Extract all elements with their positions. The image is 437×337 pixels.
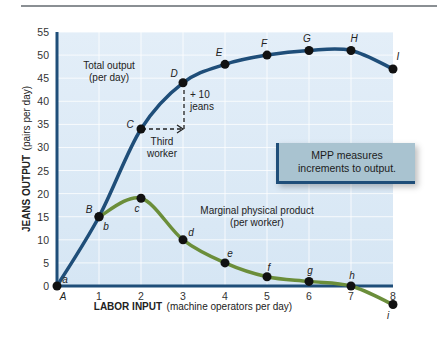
mpp-sublabel: (per worker) bbox=[230, 217, 284, 228]
mpp-point-label: g bbox=[307, 265, 313, 276]
data-point bbox=[137, 124, 146, 133]
data-point bbox=[53, 282, 62, 291]
callout-line-2: increments to output. bbox=[298, 162, 396, 175]
callout-line-1: MPP measures bbox=[311, 149, 383, 162]
data-point bbox=[305, 277, 314, 286]
data-point bbox=[347, 46, 356, 55]
total-output-label: Total output bbox=[83, 60, 135, 71]
x-tick: 7 bbox=[348, 290, 354, 302]
x-axis-label: LABOR INPUT (machine operators per day) bbox=[94, 296, 292, 313]
y-tick: 5 bbox=[43, 257, 49, 269]
y-tick: 55 bbox=[37, 26, 49, 38]
y-tick: 45 bbox=[37, 72, 49, 84]
origin-label: A bbox=[59, 291, 67, 302]
y-tick: 20 bbox=[37, 188, 49, 200]
y-tick: 50 bbox=[37, 49, 49, 61]
mpp-point-label: b bbox=[103, 221, 109, 232]
mpp-point-label: i bbox=[387, 310, 390, 321]
data-point bbox=[389, 300, 398, 309]
y-tick: 15 bbox=[37, 211, 49, 223]
total-output-point-label: B bbox=[86, 204, 93, 215]
data-point bbox=[137, 194, 146, 203]
data-point bbox=[263, 272, 272, 281]
total-output-point-label: F bbox=[261, 38, 268, 49]
data-point bbox=[305, 46, 314, 55]
y-tick: 25 bbox=[37, 165, 49, 177]
total-output-sublabel: (per day) bbox=[89, 72, 129, 83]
mpp-callout-box: MPP measures increments to output. bbox=[276, 143, 415, 184]
y-tick: 10 bbox=[37, 234, 49, 246]
data-point bbox=[179, 235, 188, 244]
jeans-label: jeans bbox=[189, 101, 214, 112]
total-output-point-label: C bbox=[126, 119, 134, 130]
x-tick: 6 bbox=[306, 290, 312, 302]
total-output-point-label: G bbox=[303, 33, 311, 44]
plus-ten-label: + 10 bbox=[190, 89, 210, 100]
mpp-point-label: e bbox=[227, 248, 233, 259]
data-point bbox=[263, 51, 272, 60]
y-tick: 30 bbox=[37, 141, 49, 153]
y-tick: 35 bbox=[37, 118, 49, 130]
data-point bbox=[221, 60, 230, 69]
data-point bbox=[95, 212, 104, 221]
mpp-point-label: c bbox=[135, 203, 140, 214]
mpp-point-label: h bbox=[349, 270, 355, 281]
data-point bbox=[389, 64, 398, 73]
y-axis-label: JEANS OUTPUT (pairs per day) bbox=[16, 86, 33, 232]
total-output-point-label: D bbox=[170, 68, 177, 79]
total-output-point-label: H bbox=[350, 33, 358, 44]
total-output-point-label: E bbox=[216, 47, 223, 58]
mpp-label: Marginal physical product bbox=[200, 205, 314, 216]
third-label: Third bbox=[151, 136, 174, 147]
y-tick: 40 bbox=[37, 95, 49, 107]
worker-label: worker bbox=[146, 148, 178, 159]
y-tick-labels: 0510152025303540455055 bbox=[37, 26, 49, 292]
data-point bbox=[179, 78, 188, 87]
y-tick: 0 bbox=[43, 280, 49, 292]
data-point bbox=[347, 282, 356, 291]
mpp-point-label: a bbox=[62, 274, 68, 285]
data-point bbox=[221, 258, 230, 267]
mpp-point-label: d bbox=[188, 227, 194, 238]
total-output-point-label: I bbox=[397, 51, 400, 62]
